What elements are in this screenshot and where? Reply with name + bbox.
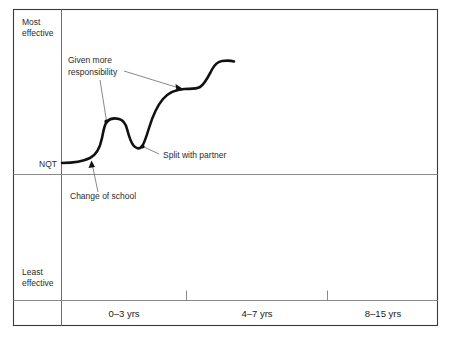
annotation-split-with-partner: Split with partner (163, 150, 226, 160)
marker-split-with-partner (140, 144, 144, 148)
x-axis-label-2: 8–15 yrs (365, 308, 402, 319)
y-axis-top-label-line2: effective (22, 28, 54, 38)
y-axis-top-label-line1: Most (22, 17, 41, 27)
chart-background (0, 0, 452, 346)
y-axis-nqt-label: NQT (39, 159, 57, 169)
annotation-change-of-school: Change of school (70, 191, 136, 201)
chart-figure: Most effective Least effective NQT 0–3 y… (0, 0, 452, 346)
annotation-given-more-responsibility-line2: responsibility (68, 67, 118, 77)
chart-svg: Most effective Least effective NQT 0–3 y… (0, 0, 452, 346)
x-axis-label-1: 4–7 yrs (241, 308, 272, 319)
annotation-given-more-responsibility-line1: Given more (68, 55, 112, 65)
marker-given-more-responsibility-left (104, 119, 108, 123)
y-axis-bottom-label-line2: effective (22, 278, 54, 288)
y-axis-bottom-label-line1: Least (22, 267, 43, 277)
x-axis-label-0: 0–3 yrs (108, 308, 139, 319)
